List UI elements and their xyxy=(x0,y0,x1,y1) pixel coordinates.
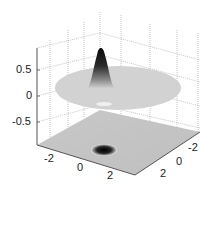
x-tick-label: -2 xyxy=(44,153,54,164)
y-tick-label: 0 xyxy=(176,156,182,167)
y-tick-label: -2 xyxy=(188,142,198,153)
z-tick-label: 0 xyxy=(26,90,32,101)
x-tick-label: 0 xyxy=(77,162,83,173)
z-tick-label: 0.5 xyxy=(16,64,31,75)
floor-contour-spot xyxy=(91,144,117,156)
y-tick-label: 2 xyxy=(160,168,166,179)
z-tick-label: -0.5 xyxy=(12,116,31,127)
x-tick-label: 2 xyxy=(107,170,113,181)
disc-surface xyxy=(55,66,181,110)
